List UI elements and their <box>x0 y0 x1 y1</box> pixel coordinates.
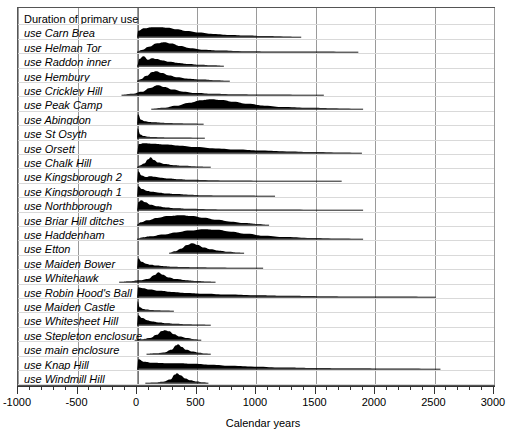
x-tick-minor-2300 <box>410 386 411 390</box>
x-tick-minor-1600 <box>326 386 327 390</box>
x-tick-minor-1800 <box>350 386 351 390</box>
x-tick-minor-2900 <box>481 386 482 390</box>
x-tick-minor-900 <box>243 386 244 390</box>
x-tick-label-3000: 3000 <box>453 396 512 408</box>
chart-root: Duration of primary useuse Carn Breause … <box>0 0 512 438</box>
x-tick-major-1000 <box>255 386 256 394</box>
x-tick-minor-2100 <box>386 386 387 390</box>
x-tick-minor-1700 <box>338 386 339 390</box>
x-tick-minor--200 <box>112 386 113 390</box>
x-tick-minor-100 <box>148 386 149 390</box>
x-tick-major--500 <box>77 386 78 394</box>
plot-area: Duration of primary useuse Carn Breause … <box>17 7 495 386</box>
x-tick-minor--700 <box>53 386 54 390</box>
row-list: Duration of primary useuse Carn Breause … <box>18 8 494 385</box>
x-axis <box>17 386 495 395</box>
x-tick-minor-2200 <box>398 386 399 390</box>
x-tick-minor-600 <box>207 386 208 390</box>
x-tick-major-2000 <box>374 386 375 394</box>
x-axis-title: Calendar years <box>0 417 512 429</box>
x-tick-minor-700 <box>219 386 220 390</box>
x-tick-minor-1400 <box>303 386 304 390</box>
x-tick-minor--600 <box>65 386 66 390</box>
x-tick-minor-1100 <box>267 386 268 390</box>
x-axis-title-text: Calendar years <box>226 417 301 429</box>
x-tick-minor--300 <box>100 386 101 390</box>
x-tick-minor-2700 <box>457 386 458 390</box>
x-tick-minor--100 <box>124 386 125 390</box>
x-tick-minor-400 <box>184 386 185 390</box>
x-tick-minor-200 <box>160 386 161 390</box>
x-tick-minor-1200 <box>279 386 280 390</box>
x-tick-minor-2800 <box>469 386 470 390</box>
x-tick-major-0 <box>136 386 137 394</box>
x-tick-minor-1300 <box>291 386 292 390</box>
gridline-x-3000 <box>494 8 495 385</box>
x-tick-major-1500 <box>315 386 316 394</box>
x-tick-major--1000 <box>17 386 18 394</box>
x-tick-minor--400 <box>88 386 89 390</box>
x-tick-minor--800 <box>41 386 42 390</box>
x-tick-minor-800 <box>231 386 232 390</box>
x-tick-major-3000 <box>493 386 494 394</box>
x-tick-minor-2400 <box>422 386 423 390</box>
x-tick-major-2500 <box>434 386 435 394</box>
x-tick-minor-300 <box>172 386 173 390</box>
x-tick-minor--900 <box>29 386 30 390</box>
x-tick-major-500 <box>196 386 197 394</box>
x-tick-minor-2600 <box>445 386 446 390</box>
x-tick-minor-1900 <box>362 386 363 390</box>
